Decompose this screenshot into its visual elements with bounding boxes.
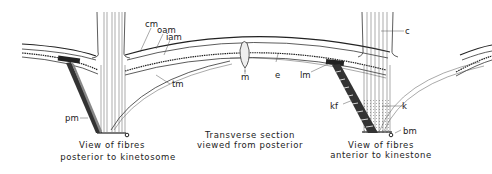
label-e: e bbox=[275, 70, 280, 80]
label-m: m bbox=[241, 72, 249, 82]
label-k: k bbox=[402, 101, 407, 111]
caption-left-line1: View of fibres bbox=[79, 140, 145, 150]
caption-center-line2: viewed from posterior bbox=[197, 140, 303, 150]
basal-marker-right bbox=[389, 133, 393, 137]
caption-right-line2: anterior to kinestone bbox=[330, 150, 432, 160]
label-tm: tm bbox=[172, 79, 184, 89]
caption-right-line1: View of fibres bbox=[348, 140, 414, 150]
label-bm: bm bbox=[403, 126, 417, 136]
label-pm: pm bbox=[65, 113, 79, 123]
caption-center-line1: Transverse section bbox=[204, 130, 295, 140]
pellicle-membranes bbox=[22, 37, 492, 78]
label-kf: kf bbox=[330, 101, 339, 111]
label-lm: lm bbox=[300, 70, 311, 80]
basal-marker-left bbox=[125, 133, 129, 137]
label-iam: iam bbox=[166, 32, 182, 42]
caption-left-line2: posterior to kinetosome bbox=[60, 152, 175, 162]
cilium-section-diagram: cm oam iam m e tm pm lm kf k c bm View o… bbox=[0, 0, 492, 174]
label-c: c bbox=[405, 26, 410, 36]
diagram-figure: cm oam iam m e tm pm lm kf k c bm View o… bbox=[0, 0, 492, 174]
mucocyst bbox=[240, 42, 249, 73]
